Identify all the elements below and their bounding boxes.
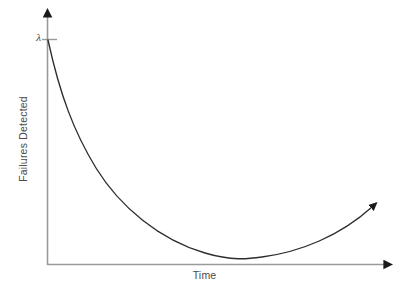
plot-area bbox=[0, 0, 409, 294]
x-axis-title: Time bbox=[0, 269, 409, 281]
y-axis-title: Failures Detected bbox=[17, 69, 29, 209]
failures-detected-curve bbox=[48, 40, 372, 259]
lambda-axis-label: λ bbox=[27, 31, 41, 43]
chart-figure: λ Time Failures Detected bbox=[0, 0, 409, 294]
